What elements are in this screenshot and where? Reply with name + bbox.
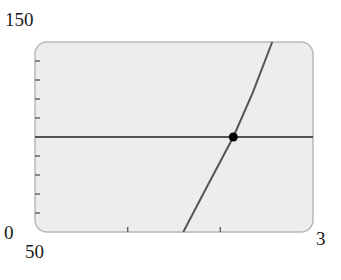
intersection-point: [229, 133, 238, 142]
plot-area: [0, 0, 341, 280]
